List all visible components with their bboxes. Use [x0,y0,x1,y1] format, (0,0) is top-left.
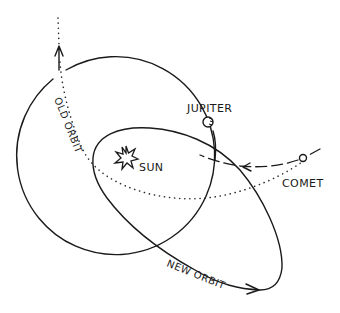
new-orbit-label: NEW ORBIT [165,258,227,292]
comet-icon [300,155,307,162]
jupiter-label: JUPITER [186,102,232,115]
comet-orbit-diagram: JUPITER SUN COMET OLD ORBIT NEW ORBIT [0,0,340,313]
old-orbit-arrow-icon [55,46,63,70]
jupiter-orbit-circle [17,57,215,255]
jupiter-planet-icon [203,117,213,127]
sun-icon [115,146,138,169]
old-orbit-label: OLD ORBIT [52,96,85,156]
comet-label: COMET [282,177,324,190]
sun-label: SUN [139,161,163,174]
